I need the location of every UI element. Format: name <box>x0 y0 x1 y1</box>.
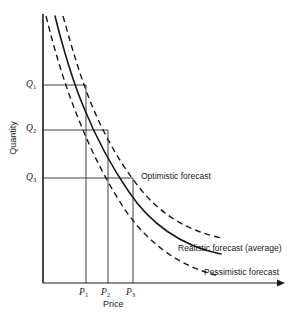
curve-pessimistic-forecast <box>46 16 216 275</box>
y-tick-label-q1: Q1 <box>26 80 36 90</box>
y-tick-label-q2: Q2 <box>26 124 36 134</box>
x-axis-arrowhead <box>277 280 285 287</box>
curve-realistic-forecast <box>55 16 221 254</box>
curve-optimistic-forecast <box>63 16 222 238</box>
guide-line-q2-p2 <box>43 130 108 283</box>
y-axis-title-wrap: Quantity <box>6 108 20 168</box>
guide-line-q1-p1 <box>43 85 86 283</box>
annotation-realistic-forecast: Realistic forecast (average) <box>178 244 281 253</box>
guide-line-q3-p3 <box>43 178 133 283</box>
annotation-pessimistic-forecast: Pessimistic forecast <box>204 268 279 277</box>
x-tick-label-p3: P3 <box>126 288 135 298</box>
x-axis-title: Price <box>103 300 124 309</box>
annotation-optimistic-forecast: Optimistic forecast <box>141 172 211 181</box>
y-axis-title: Quantity <box>8 121 18 155</box>
x-tick-label-p2: P2 <box>101 288 110 298</box>
y-tick-label-q3: Q3 <box>26 173 36 183</box>
x-tick-label-p1: P1 <box>79 288 88 298</box>
demand-forecast-chart: Quantity Q1 Q2 Q3 P1 P2 P3 Price Optimis… <box>0 0 295 324</box>
